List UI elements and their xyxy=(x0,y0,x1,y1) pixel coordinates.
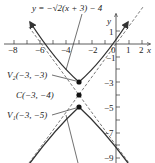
y-tick-label: −7 xyxy=(104,128,114,138)
x-tick-label: −8 xyxy=(8,45,18,55)
y-tick-label: −3 xyxy=(104,78,114,88)
vertex-v2-label: V₂(−3, −3) xyxy=(7,70,47,80)
center-point xyxy=(76,92,81,97)
x-tick-label: −6 xyxy=(35,45,45,55)
y-tick-label: −9 xyxy=(104,153,114,163)
y-tick-label: 1 xyxy=(109,27,114,37)
y-tick-label: −1 xyxy=(106,53,116,63)
x-axis-label: x xyxy=(146,45,151,55)
hyperbola-diagram: y = −√2(x + 3) − 4 −8 −6 −4 −2 0 1 2 x y… xyxy=(0,0,155,163)
x-axis xyxy=(4,40,150,44)
vertex-v2-point xyxy=(76,79,81,84)
center-label: C(−3, −4) xyxy=(16,90,54,100)
leader-lines xyxy=(52,14,82,163)
equation-label: y = −√2(x + 3) − 4 xyxy=(31,3,103,13)
vertex-v1-label: V₁(−3, −5) xyxy=(7,110,47,120)
asymptotes xyxy=(29,7,143,163)
x-tick-label: −4 xyxy=(61,45,71,55)
x-tick-label: 1 xyxy=(126,45,131,55)
y-tick-label: −5 xyxy=(104,103,114,113)
x-tick-label: 2 xyxy=(139,45,144,55)
vertex-v1-point xyxy=(76,104,81,109)
y-axis-label: y xyxy=(106,16,111,26)
x-tick-label: −2 xyxy=(88,45,98,55)
